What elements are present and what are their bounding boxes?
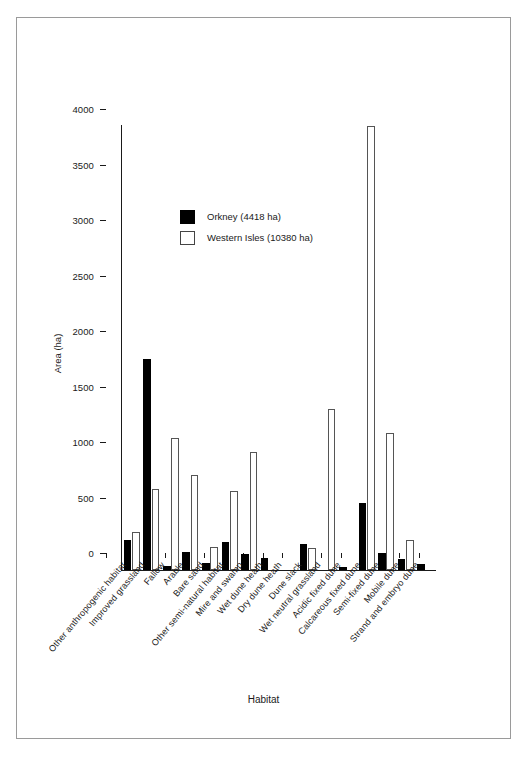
y-tick-mark	[100, 165, 106, 166]
bar-western-isles	[171, 438, 179, 570]
legend: Orkney (4418 ha)Western Isles (10380 ha)	[180, 206, 313, 248]
legend-item: Orkney (4418 ha)	[180, 206, 313, 227]
x-category-label: Other anthropogenic habitat	[46, 560, 127, 654]
bar-western-isles	[386, 433, 394, 570]
bar-western-isles	[250, 452, 258, 570]
legend-label: Western Isles (10380 ha)	[207, 232, 313, 243]
legend-swatch-white	[180, 231, 195, 245]
y-tick-label: 2000	[17, 326, 94, 337]
y-tick-mark	[100, 387, 106, 388]
x-tick-mark	[106, 553, 107, 558]
y-tick-label: 2500	[17, 270, 94, 281]
legend-label: Orkney (4418 ha)	[207, 211, 281, 222]
y-tick-mark	[100, 276, 106, 277]
x-axis-label: Habitat	[17, 694, 510, 705]
legend-item: Western Isles (10380 ha)	[180, 227, 313, 248]
bar-western-isles	[152, 489, 160, 570]
y-tick-label: 3500	[17, 159, 94, 170]
y-tick-mark	[100, 331, 106, 332]
bar-orkney	[359, 503, 367, 570]
y-tick-mark	[100, 442, 106, 443]
y-tick-label: 0	[17, 548, 94, 559]
y-tick-label: 500	[17, 492, 94, 503]
y-tick-label: 1000	[17, 437, 94, 448]
bar-western-isles	[367, 126, 375, 570]
y-tick-mark	[100, 220, 106, 221]
y-tick-mark	[100, 498, 106, 499]
figure-frame: Area (ha) Habitat 0500100015002000250030…	[16, 17, 511, 739]
y-tick-label: 3000	[17, 215, 94, 226]
figure-page: Area (ha) Habitat 0500100015002000250030…	[0, 0, 528, 757]
y-tick-label: 4000	[17, 104, 94, 115]
bar-western-isles	[230, 491, 238, 570]
bar-western-isles	[191, 475, 199, 570]
bars-layer	[122, 126, 435, 570]
bar-orkney	[143, 359, 151, 570]
legend-swatch-black	[180, 210, 195, 224]
bar-western-isles	[328, 409, 336, 571]
y-axis-label: Area (ha)	[52, 334, 63, 374]
y-tick-mark	[100, 109, 106, 110]
plot-area	[122, 126, 435, 570]
y-tick-label: 1500	[17, 381, 94, 392]
